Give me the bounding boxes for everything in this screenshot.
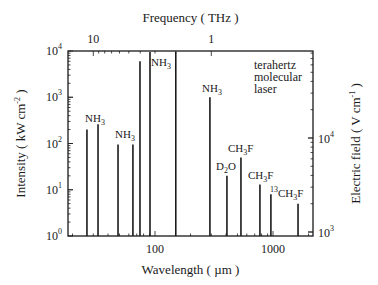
line-label: NH3 [85,112,105,127]
y-tick-label: 100 [46,227,62,243]
annotation-text: laser [254,82,277,96]
axis-labels: 1001011021031041031041001000101Wavelengt… [13,10,363,277]
y-tick-label: 103 [46,88,62,104]
y-tick-label: 102 [46,135,62,151]
x-tick-label: 1000 [261,242,285,256]
top-axis-title: Frequency ( THz ) [142,10,238,25]
right-tick-label: 103 [318,224,334,240]
top-tick-label: 10 [87,32,99,46]
right-axis-title: Electric field ( V cm-1 ) [348,83,363,204]
line-label: NH3 [151,56,171,71]
top-tick-label: 1 [208,32,214,46]
line-label: 13CH3F [270,185,303,202]
y-tick-label: 104 [46,42,62,58]
y-axis-title: Intensity ( kW cm-2 ) [13,89,28,197]
line-label: D2O [216,160,236,175]
y-tick-label: 101 [46,181,62,197]
line-label: NH3 [115,128,135,143]
x-tick-label: 100 [146,242,164,256]
x-axis-title: Wavelength ( µm ) [142,262,240,277]
line-label: CH3F [248,169,273,184]
line-label: NH3 [202,82,222,97]
chart: 1001011021031041031041001000101Wavelengt… [0,0,378,285]
right-tick-label: 104 [318,130,334,146]
line-label: CH3F [228,142,253,157]
